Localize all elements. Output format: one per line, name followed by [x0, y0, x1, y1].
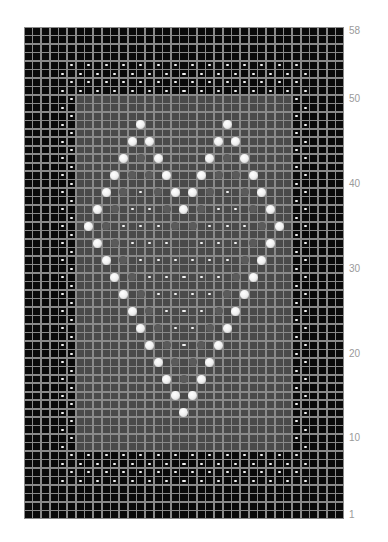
chart-cell [293, 96, 300, 103]
chart-cell [85, 443, 92, 450]
chart-cell [163, 155, 170, 162]
chart-cell [276, 435, 283, 442]
faint-stitch-dot-icon [223, 290, 231, 298]
chart-cell [241, 70, 248, 77]
chart-cell [267, 469, 274, 476]
chart-cell [94, 62, 101, 69]
chart-cell [25, 443, 32, 450]
chart-cell [258, 299, 265, 306]
chart-cell [155, 257, 162, 264]
purl-dash-icon [200, 463, 203, 465]
chart-cell [68, 460, 75, 467]
chart-cell [77, 494, 84, 501]
chart-cell [206, 511, 213, 518]
chart-cell [232, 359, 239, 366]
chart-cell [172, 214, 179, 221]
purl-dash-icon [61, 446, 64, 448]
chart-cell [284, 435, 291, 442]
chart-cell [111, 265, 118, 272]
purl-dash-icon [200, 480, 203, 482]
chart-cell [284, 418, 291, 425]
chart-cell [267, 28, 274, 35]
chart-cell [241, 206, 248, 213]
chart-cell [155, 308, 162, 315]
chart-cell [319, 308, 326, 315]
purl-dash-icon [304, 174, 307, 176]
chart-cell [180, 197, 187, 204]
chart-cell [120, 164, 127, 171]
chart-cell [224, 503, 231, 510]
chart-cell [172, 113, 179, 120]
chart-cell [163, 376, 170, 383]
chart-cell [310, 265, 317, 272]
chart-cell [146, 164, 153, 171]
chart-cell [59, 494, 66, 501]
chart-cell [137, 460, 144, 467]
chart-cell [328, 443, 335, 450]
chart-cell [137, 36, 144, 43]
chart-cell [146, 189, 153, 196]
chart-cell [59, 130, 66, 137]
chart-cell [215, 172, 222, 179]
chart-cell [120, 189, 127, 196]
chart-cell [59, 316, 66, 323]
chart-cell [146, 333, 153, 340]
purl-dash-icon [96, 90, 99, 92]
chart-cell [215, 426, 222, 433]
chart-cell [258, 214, 265, 221]
chart-cell [129, 384, 136, 391]
chart-cell [250, 265, 257, 272]
chart-cell [59, 274, 66, 281]
bobble-dot-icon [128, 307, 137, 316]
chart-cell [85, 384, 92, 391]
chart-cell [103, 393, 110, 400]
chart-cell [232, 53, 239, 60]
chart-cell [267, 214, 274, 221]
chart-cell [310, 503, 317, 510]
chart-cell [94, 223, 101, 230]
chart-cell [302, 121, 309, 128]
purl-dash-icon [61, 174, 64, 176]
chart-cell [302, 469, 309, 476]
chart-cell [232, 460, 239, 467]
chart-cell [258, 138, 265, 145]
chart-cell [33, 384, 40, 391]
chart-cell [120, 147, 127, 154]
chart-cell [137, 291, 144, 298]
purl-dash-icon [148, 480, 151, 482]
chart-cell [137, 384, 144, 391]
chart-cell [51, 104, 58, 111]
chart-cell [42, 121, 49, 128]
chart-cell [328, 367, 335, 374]
faint-stitch-dot-icon [119, 188, 127, 196]
chart-cell [111, 282, 118, 289]
chart-cell [77, 257, 84, 264]
chart-cell [206, 147, 213, 154]
chart-cell [25, 393, 32, 400]
chart-cell [172, 87, 179, 94]
purl-dash-icon [70, 370, 73, 372]
chart-cell [258, 393, 265, 400]
chart-cell [180, 121, 187, 128]
chart-cell [77, 299, 84, 306]
purl-dash-icon [217, 208, 220, 210]
chart-cell [224, 28, 231, 35]
chart-cell [293, 460, 300, 467]
chart-cell [146, 138, 153, 145]
chart-cell [94, 121, 101, 128]
chart-cell [85, 460, 92, 467]
chart-cell [111, 511, 118, 518]
chart-cell [319, 104, 326, 111]
chart-cell [33, 214, 40, 221]
bobble-dot-icon [145, 341, 154, 350]
chart-cell [319, 164, 326, 171]
chart-cell [77, 130, 84, 137]
purl-dash-icon [191, 81, 194, 83]
chart-cell [129, 96, 136, 103]
chart-cell [94, 393, 101, 400]
chart-cell [276, 70, 283, 77]
chart-cell [111, 79, 118, 86]
chart-cell [111, 180, 118, 187]
chart-cell [68, 206, 75, 213]
chart-cell [137, 494, 144, 501]
